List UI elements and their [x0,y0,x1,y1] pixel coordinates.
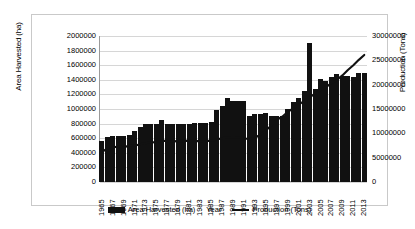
left-axis-title: Area Harvested (ha) [14,7,23,107]
right-tick-label: 20000000 [372,81,405,89]
legend-item-area-harvested: Area Harvested (ha) [108,205,196,214]
right-tick-label: 25000000 [372,56,405,64]
left-axis-ticks: 0200000400000600000800000100000012000001… [32,15,96,161]
legend-item-year: Year [206,205,221,214]
chart-plot-frame: 0200000400000600000800000100000012000001… [31,14,388,206]
right-axis-ticks: 0500000010000000150000002000000025000000… [372,15,415,161]
plot-area [99,36,367,182]
gridline [100,182,367,183]
right-tick-label: 0 [372,178,376,186]
left-tick-label: 800000 [71,120,96,128]
left-tick-label: 1800000 [67,47,96,55]
left-tick-label: 1600000 [67,61,96,69]
right-tick-label: 15000000 [372,105,405,113]
legend-label-area-harvested: Area Harvested (ha) [128,205,196,214]
legend-label-production: Production (Tons) [252,205,311,214]
right-tick-label: 10000000 [372,129,405,137]
left-tick-label: 200000 [71,163,96,171]
right-tick-label: 30000000 [372,32,405,40]
left-tick-label: 1400000 [67,76,96,84]
production-line-svg [99,36,367,182]
legend-item-production: Production (Tons) [232,205,311,214]
legend-label-year: Year [206,205,221,214]
chart-figure: Area Harvested (ha) Production (Tons) 02… [0,0,415,229]
line-swatch-icon [232,209,249,211]
left-tick-label: 1200000 [67,90,96,98]
left-tick-label: 1000000 [67,105,96,113]
line-series-production [99,36,367,182]
left-tick-label: 0 [92,178,96,186]
left-tick-label: 600000 [71,134,96,142]
production-polyline [102,55,365,152]
left-tick-label: 400000 [71,149,96,157]
right-tick-label: 5000000 [372,154,401,162]
chart-legend: Area Harvested (ha) Year Production (Ton… [31,205,388,214]
bar-swatch-icon [108,207,125,213]
left-tick-label: 2000000 [67,32,96,40]
